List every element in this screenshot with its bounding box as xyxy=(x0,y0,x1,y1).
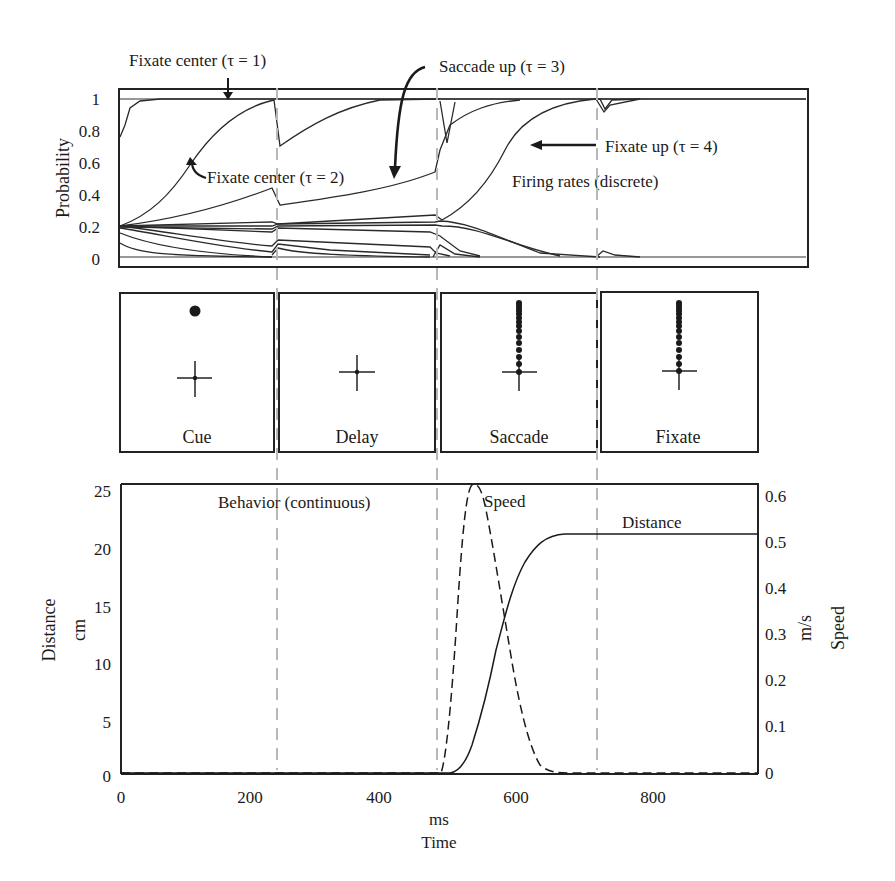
label-fixate-up-tau4: Fixate up (τ = 4) xyxy=(605,137,718,156)
task-epoch-panels: Cue Delay Saccade xyxy=(120,292,758,452)
x-axis-unit: ms xyxy=(429,810,449,829)
label-fixate-center-tau1: Fixate center (τ = 1) xyxy=(129,51,266,70)
right-ytick-0.6: 0.6 xyxy=(765,487,786,506)
distance-curve xyxy=(121,534,758,773)
xtick-200: 200 xyxy=(237,788,263,807)
arrowhead-icon xyxy=(389,166,401,179)
firing-rates-panel: 1 0.8 0.6 0.4 0.2 0 Probability xyxy=(53,51,808,269)
probability-axis-label: Probability xyxy=(53,138,73,218)
epoch-label-cue: Cue xyxy=(183,427,212,447)
ytick-0.2: 0.2 xyxy=(79,218,100,237)
xtick-800: 800 xyxy=(640,788,666,807)
epoch-label-delay: Delay xyxy=(336,427,379,447)
left-ytick-15: 15 xyxy=(94,598,111,617)
distance-curve-label: Distance xyxy=(622,513,681,532)
speed-axis-unit: m/s xyxy=(795,615,815,641)
label-fixate-center-tau2: Fixate center (τ = 2) xyxy=(207,168,344,187)
figure-canvas: 1 0.8 0.6 0.4 0.2 0 Probability xyxy=(0,0,895,881)
epoch-label-fixate: Fixate xyxy=(656,427,701,447)
speed-axis-label: Speed xyxy=(828,606,848,650)
ytick-0: 0 xyxy=(92,250,101,269)
firing-rates-title: Firing rates (discrete) xyxy=(512,172,658,191)
xtick-600: 600 xyxy=(503,788,529,807)
saccade-trajectory-dots xyxy=(516,300,522,375)
left-ytick-25: 25 xyxy=(94,482,111,501)
right-ytick-0.1: 0.1 xyxy=(765,717,786,736)
target-dot-icon xyxy=(190,306,201,317)
epoch-panel-saccade: Saccade xyxy=(441,293,597,452)
epoch-panel-delay: Delay xyxy=(279,293,435,452)
epoch-panel-cue: Cue xyxy=(120,293,274,452)
right-ytick-0.3: 0.3 xyxy=(765,625,786,644)
speed-curve-label: Speed xyxy=(484,492,526,511)
arrow-saccade-up-tau3 xyxy=(395,67,425,168)
left-ytick-5: 5 xyxy=(103,713,112,732)
ytick-1: 1 xyxy=(92,90,101,109)
right-ytick-0.5: 0.5 xyxy=(765,533,786,552)
distance-axis-label: Distance xyxy=(39,599,59,662)
right-ytick-0.2: 0.2 xyxy=(765,671,786,690)
distance-axis-unit: cm xyxy=(69,619,89,641)
epoch-panel-fixate: Fixate xyxy=(601,292,758,452)
fixate-trajectory-dots xyxy=(676,300,682,374)
x-axis-label: Time xyxy=(421,833,456,852)
left-ytick-0: 0 xyxy=(103,767,112,786)
right-ytick-0.4: 0.4 xyxy=(765,579,787,598)
behavior-title: Behavior (continuous) xyxy=(218,493,371,512)
ytick-0.4: 0.4 xyxy=(79,186,101,205)
ytick-0.6: 0.6 xyxy=(79,154,100,173)
label-saccade-up-tau3: Saccade up (τ = 3) xyxy=(439,57,565,76)
xtick-400: 400 xyxy=(366,788,392,807)
left-ytick-20: 20 xyxy=(94,540,111,559)
xtick-0: 0 xyxy=(117,788,126,807)
ytick-0.8: 0.8 xyxy=(79,122,100,141)
left-ytick-10: 10 xyxy=(94,655,111,674)
arrowhead-icon xyxy=(530,140,542,150)
right-ytick-0: 0 xyxy=(765,764,774,783)
behavior-panel: 25 20 15 10 5 0 Distance cm 0.6 0.5 0.4 … xyxy=(39,482,848,852)
epoch-label-saccade: Saccade xyxy=(490,427,549,447)
